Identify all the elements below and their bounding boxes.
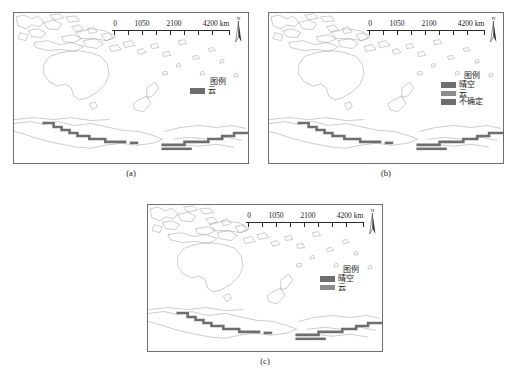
scale-label-4200km: 4200 km	[458, 19, 484, 29]
legend-item-clear-sky[interactable]: 晴空	[441, 81, 503, 89]
scale-bar-labels-a: 0 1050 2100 4200 km	[112, 19, 230, 29]
legend-label-clear-sky: 晴空	[459, 81, 475, 89]
panel-caption-a: (a)	[13, 168, 249, 178]
legend-title-a: 图例	[190, 75, 246, 86]
legend-title-b: 图例	[441, 69, 503, 80]
legend-item-cloud[interactable]: 云	[320, 284, 382, 292]
legend-swatch-cloud	[190, 88, 205, 94]
scale-label-0: 0	[247, 211, 251, 221]
scale-bar-ticks-a	[112, 30, 230, 36]
legend-title-c: 图例	[320, 263, 382, 274]
legend-b: 图例 晴空 云 不确定	[441, 69, 503, 107]
legend-item-uncertain[interactable]: 不确定	[441, 98, 503, 106]
scale-bar-labels-b: 0 1050 2100 4200 km	[367, 19, 485, 29]
map-frame-b[interactable]: 0 1050 2100 4200 km N 图例 晴空	[268, 12, 504, 164]
north-arrow-icon	[234, 21, 243, 43]
scale-label-0: 0	[368, 19, 372, 29]
scale-bar-labels-c: 0 1050 2100 4200 km	[246, 211, 364, 221]
legend-label-cloud: 云	[208, 87, 216, 95]
scale-bar-ticks-c	[246, 222, 364, 228]
panel-caption-c: (c)	[147, 356, 383, 366]
panel-c: 0 1050 2100 4200 km N 图例 晴空	[147, 204, 383, 372]
north-arrow-a: N	[232, 16, 245, 43]
north-arrow-b: N	[487, 16, 500, 43]
map-frame-c[interactable]: 0 1050 2100 4200 km N 图例 晴空	[147, 204, 383, 352]
scale-label-1050: 1050	[135, 19, 150, 29]
scale-bar-c: 0 1050 2100 4200 km	[246, 211, 364, 228]
north-arrow-c: N	[366, 208, 379, 235]
north-arrow-icon	[368, 213, 377, 235]
panel-a: 0 1050 2100 4200 km N 图例 云	[13, 12, 249, 180]
scale-bar-b: 0 1050 2100 4200 km	[367, 19, 485, 36]
scale-label-4200km: 4200 km	[337, 211, 363, 221]
legend-swatch-uncertain	[441, 99, 456, 105]
scale-label-2100: 2100	[422, 19, 437, 29]
north-arrow-icon	[489, 21, 498, 43]
legend-swatch-cloud	[441, 91, 456, 97]
scale-label-0: 0	[113, 19, 117, 29]
legend-a: 图例 云	[190, 75, 246, 96]
legend-c: 图例 晴空 云	[320, 263, 382, 292]
panel-caption-b: (b)	[268, 168, 504, 178]
scale-bar-a: 0 1050 2100 4200 km	[112, 19, 230, 36]
legend-item-clear-sky[interactable]: 晴空	[320, 275, 382, 283]
legend-swatch-clear-sky	[441, 82, 456, 88]
scale-label-2100: 2100	[301, 211, 316, 221]
legend-item-cloud[interactable]: 云	[190, 87, 246, 95]
legend-label-uncertain: 不确定	[459, 98, 483, 106]
scale-label-1050: 1050	[269, 211, 284, 221]
legend-swatch-clear-sky	[320, 276, 335, 282]
scale-label-1050: 1050	[390, 19, 405, 29]
legend-swatch-cloud	[320, 285, 335, 291]
scale-label-4200km: 4200 km	[203, 19, 229, 29]
scale-label-2100: 2100	[167, 19, 182, 29]
panel-b: 0 1050 2100 4200 km N 图例 晴空	[268, 12, 504, 180]
map-frame-a[interactable]: 0 1050 2100 4200 km N 图例 云	[13, 12, 249, 164]
legend-label-cloud: 云	[338, 284, 346, 292]
legend-label-clear-sky: 晴空	[338, 275, 354, 283]
scale-bar-ticks-b	[367, 30, 485, 36]
